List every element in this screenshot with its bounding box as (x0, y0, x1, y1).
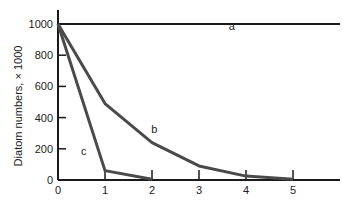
series-line-b (58, 24, 293, 179)
line-chart: 02004006008001000012345Diatom numbers, ×… (0, 0, 358, 206)
x-tick-label: 5 (290, 184, 296, 196)
curve-label-c: c (81, 145, 87, 157)
x-tick-label: 1 (102, 184, 108, 196)
x-tick-label: 3 (196, 184, 202, 196)
y-tick-label: 200 (35, 143, 53, 155)
x-tick-label: 0 (55, 184, 61, 196)
x-tick-label: 2 (149, 184, 155, 196)
curve-label-a: a (229, 20, 236, 32)
y-tick-label: 0 (47, 174, 53, 186)
curve-label-b: b (151, 123, 157, 135)
chart: 02004006008001000012345Diatom numbers, ×… (0, 0, 358, 206)
y-tick-label: 600 (35, 80, 53, 92)
y-tick-label: 400 (35, 112, 53, 124)
y-tick-label: 800 (35, 49, 53, 61)
y-tick-label: 1000 (29, 18, 53, 30)
x-tick-label: 4 (243, 184, 249, 196)
y-axis-label: Diatom numbers, × 1000 (12, 46, 24, 167)
